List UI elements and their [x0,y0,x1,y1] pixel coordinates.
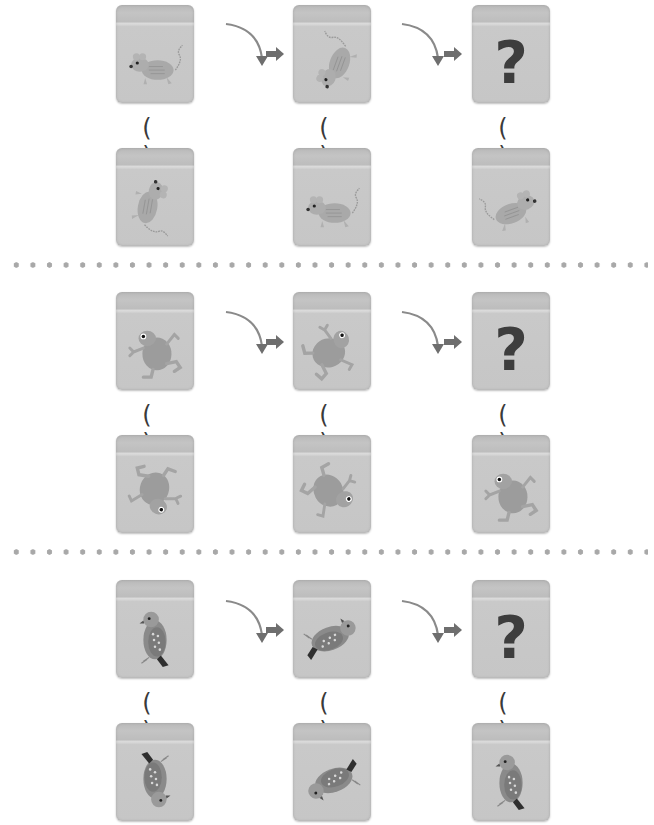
question-mark: ? [494,34,528,92]
rat-icon [301,175,363,237]
right-arrow-icon [444,47,462,61]
bird-icon [480,750,542,812]
option-cube-a[interactable] [116,723,194,821]
frog-icon [480,462,542,524]
question-mark: ? [494,609,528,667]
sequence-cube-2 [293,580,371,678]
sequence-cube-2 [293,292,371,390]
rotate-down-arrow-icon [398,597,448,647]
frog-icon [115,453,194,532]
sequence-cube-1 [116,580,194,678]
rat-icon [292,23,371,102]
sequence-cube-1 [116,5,194,103]
dotted-divider [8,261,648,269]
rat-icon [124,32,186,94]
question-mark: ? [494,321,528,379]
frog-icon [124,319,186,381]
option-cube-c[interactable] [472,723,550,821]
frog-icon [290,451,375,536]
question-cube: ? [472,5,550,103]
option-cube-a[interactable] [116,435,194,533]
option-cube-b[interactable] [293,435,371,533]
right-arrow-icon [444,335,462,349]
frog-icon [294,312,370,388]
bird-icon [292,598,371,677]
dotted-divider [8,548,648,556]
sequence-cube-2 [293,5,371,103]
rotate-down-arrow-icon [222,597,272,647]
right-arrow-icon [266,335,284,349]
rotate-down-arrow-icon [398,308,448,358]
rotate-down-arrow-icon [222,308,272,358]
option-cube-b[interactable] [293,148,371,246]
question-cube: ? [472,580,550,678]
rat-icon [119,170,191,242]
option-cube-b[interactable] [293,723,371,821]
sequence-cube-1 [116,292,194,390]
option-cube-c[interactable] [472,435,550,533]
bird-icon [124,607,186,669]
option-cube-c[interactable] [472,148,550,246]
right-arrow-icon [266,47,284,61]
rat-icon [471,166,550,245]
rotate-down-arrow-icon [222,20,272,70]
bird-icon [124,750,186,812]
right-arrow-icon [266,623,284,637]
right-arrow-icon [444,623,462,637]
bird-icon [292,741,371,820]
option-cube-a[interactable] [116,148,194,246]
rotate-down-arrow-icon [398,20,448,70]
question-cube: ? [472,292,550,390]
